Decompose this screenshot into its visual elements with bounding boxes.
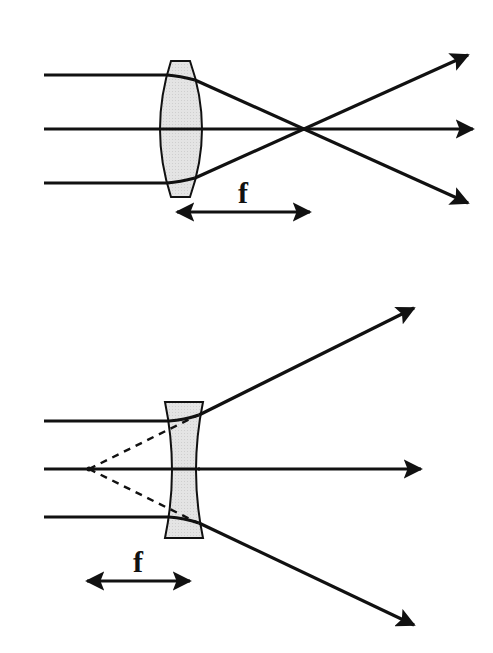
focal-length-label: f — [133, 545, 144, 578]
refracted-rays-diverging — [198, 308, 421, 625]
focal-length-indicator-bottom: f — [87, 545, 190, 581]
focal-length-indicator-top: f — [177, 176, 310, 212]
refracted-ray-bottom — [199, 523, 414, 625]
refracted-ray-bottom — [195, 55, 468, 178]
refracted-ray-top — [195, 80, 468, 203]
refracted-ray-top — [199, 308, 414, 415]
lens-diagram: f f — [0, 0, 493, 653]
diverging-lens-diagram: f — [44, 308, 421, 625]
converging-lens-diagram: f — [44, 55, 473, 212]
focal-length-label: f — [238, 176, 249, 209]
